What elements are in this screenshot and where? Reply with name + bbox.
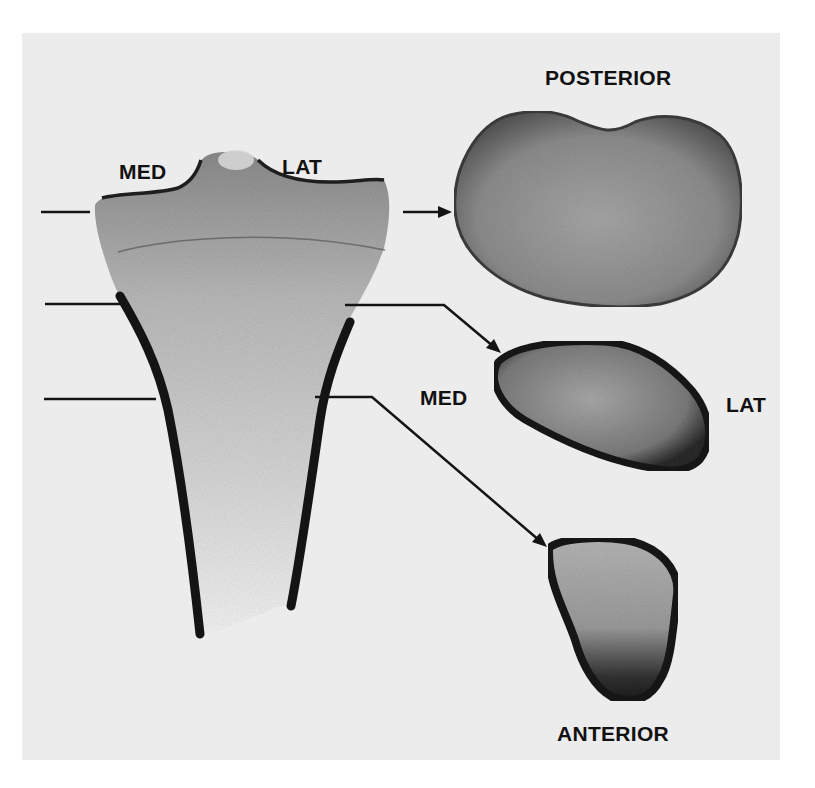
cross-section-3 <box>549 538 677 701</box>
label-posterior: POSTERIOR <box>545 67 671 88</box>
tibia-figure <box>0 0 815 788</box>
label-top-lateral: LAT <box>282 156 322 177</box>
label-mid-medial: MED <box>420 387 468 408</box>
cross-section-1 <box>455 111 742 306</box>
label-mid-lateral: LAT <box>726 394 766 415</box>
label-top-medial: MED <box>119 161 167 182</box>
level-2-arrow <box>345 305 494 347</box>
cross-section-2 <box>494 342 708 471</box>
label-anterior: ANTERIOR <box>557 723 669 744</box>
level-1-arrowhead-icon <box>438 206 452 218</box>
level-3-arrow <box>315 397 540 541</box>
tibia-longitudinal-section <box>95 150 389 634</box>
